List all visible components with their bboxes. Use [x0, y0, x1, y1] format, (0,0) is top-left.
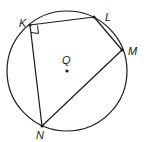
- point-m: [121, 49, 124, 52]
- point-n: [41, 125, 44, 128]
- label-k: K: [19, 17, 27, 29]
- segment-mn: [42, 50, 122, 126]
- center-point-q: [65, 69, 68, 72]
- geometry-diagram: K L M N Q: [0, 0, 148, 142]
- point-k: [29, 24, 32, 27]
- label-n: N: [36, 129, 44, 141]
- point-l: [93, 16, 96, 19]
- label-m: M: [128, 45, 138, 57]
- segment-nk: [30, 25, 42, 126]
- label-q: Q: [62, 54, 71, 66]
- right-angle-marker: [31, 26, 39, 34]
- label-l: L: [105, 11, 111, 23]
